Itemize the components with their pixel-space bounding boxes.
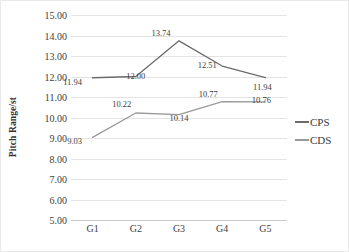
y-axis-tick-label: 8.00	[50, 153, 68, 164]
data-label: 10.77	[199, 89, 218, 99]
x-axis-tick-label: G5	[259, 223, 271, 234]
data-label: 10.22	[112, 99, 131, 109]
data-label: 10.14	[169, 113, 188, 123]
x-axis-tick-label: G3	[173, 223, 185, 234]
gridline	[71, 220, 287, 221]
legend-item-cps[interactable]: CPS	[295, 113, 347, 131]
data-label: 9.03	[67, 136, 82, 146]
y-axis-tick-label: 10.00	[45, 112, 68, 123]
x-axis-tick-label: G1	[86, 223, 98, 234]
y-axis-tick-label: 14.00	[45, 30, 68, 41]
legend-label: CDS	[310, 134, 331, 146]
y-axis-tick-label: 15.00	[45, 10, 68, 21]
series-line-cps	[93, 41, 266, 78]
x-axis-tick-label: G2	[130, 223, 142, 234]
y-axis-title-label: Pitch Range/st	[8, 97, 18, 157]
x-axis-tick-labels: G1G2G3G4G5	[71, 223, 287, 239]
y-axis-tick-label: 9.00	[50, 133, 68, 144]
data-label: 13.74	[151, 28, 170, 38]
data-label: 12.51	[198, 60, 217, 70]
y-axis-tick-label: 6.00	[50, 194, 68, 205]
legend-label: CPS	[310, 116, 330, 128]
x-axis-tick-label: G4	[216, 223, 228, 234]
y-axis-title: Pitch Range/st	[5, 1, 21, 252]
y-axis-tick-label: 13.00	[45, 51, 68, 62]
data-label: 11.94	[63, 77, 82, 87]
plot-area: 11.9412.0013.7412.5111.949.0310.2210.141…	[71, 15, 287, 220]
y-axis-tick-label: 5.00	[50, 215, 68, 226]
y-axis-tick-labels: 15.0014.0013.0012.0011.0010.009.008.007.…	[21, 15, 67, 220]
y-axis-tick-label: 7.00	[50, 174, 68, 185]
legend-swatch	[295, 139, 309, 141]
data-label: 10.76	[252, 95, 271, 105]
legend-item-cds[interactable]: CDS	[295, 131, 347, 149]
legend-swatch	[295, 121, 309, 123]
y-axis-tick-label: 11.00	[45, 92, 67, 103]
data-label: 12.00	[126, 71, 145, 81]
chart-container: Pitch Range/st 15.0014.0013.0012.0011.00…	[0, 0, 349, 252]
chart-legend: CPSCDS	[295, 113, 347, 149]
data-label: 11.94	[253, 82, 272, 92]
